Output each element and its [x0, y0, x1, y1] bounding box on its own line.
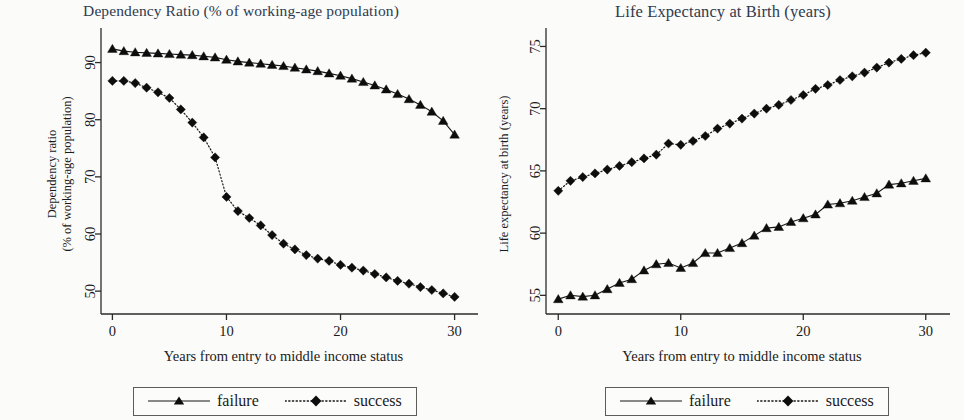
data-point-failure [725, 243, 735, 251]
data-point-success [393, 276, 402, 285]
data-point-success [211, 153, 220, 162]
data-point-success [370, 269, 379, 278]
data-point-failure [737, 239, 747, 247]
x-tick-label: 0 [555, 323, 562, 339]
data-point-success [142, 83, 151, 92]
legend-label-success: success [826, 392, 874, 410]
data-point-failure [627, 275, 637, 283]
data-point-success [725, 119, 734, 128]
series-line-success [112, 81, 454, 297]
data-point-success [811, 84, 820, 93]
data-point-failure [676, 263, 686, 271]
legend-label-failure: failure [217, 392, 259, 410]
data-point-success [823, 80, 832, 89]
data-point-success [860, 68, 869, 77]
y-tick-label: 60 [527, 226, 543, 241]
data-point-success [302, 251, 311, 260]
x-tick-label: 20 [796, 323, 811, 339]
x-tick-label: 10 [219, 323, 234, 339]
data-point-success [835, 75, 844, 84]
y-tick-label: 75 [527, 39, 543, 54]
x-axis-title: Years from entry to middle income status [164, 348, 404, 364]
data-point-success [427, 285, 436, 294]
data-point-success [603, 165, 612, 174]
y-tick-label: 70 [82, 170, 98, 185]
data-point-success [119, 76, 128, 85]
x-tick-label: 30 [447, 323, 462, 339]
chart-plot-life-expectancy: 55606570750102030Years from entry to mid… [482, 0, 964, 420]
data-point-success [664, 139, 673, 148]
y-axis-title: Life expectancy at birth (years) [497, 96, 511, 253]
x-tick-label: 20 [333, 323, 348, 339]
data-point-failure [774, 222, 784, 230]
data-point-failure [381, 85, 391, 93]
data-point-failure [404, 95, 414, 103]
data-point-success [404, 279, 413, 288]
y-tick-label: 80 [82, 112, 98, 127]
legend-life-expectancy: failure success [605, 387, 889, 416]
x-axis-title: Years from entry to middle income status [622, 348, 862, 364]
y-axis-title: (% of working-age population) [60, 96, 74, 251]
data-point-failure [108, 44, 118, 52]
data-point-failure [427, 107, 437, 115]
data-point-success [676, 140, 685, 149]
data-point-failure [602, 285, 612, 293]
x-tick-label: 30 [919, 323, 934, 339]
data-point-success [921, 48, 930, 57]
data-point-success [382, 273, 391, 282]
figure-root: Dependency Ratio (% of working-age popul… [0, 0, 964, 420]
y-tick-label: 50 [82, 284, 98, 299]
data-point-success [359, 266, 368, 275]
data-point-success [762, 104, 771, 113]
data-point-success [884, 58, 893, 67]
y-tick-label: 65 [527, 164, 543, 179]
data-point-failure [664, 258, 674, 266]
data-point-success [799, 90, 808, 99]
x-tick-label: 10 [674, 323, 689, 339]
data-point-success [131, 79, 140, 88]
chart-plot-dependency-ratio: 50607080900102030Years from entry to mid… [0, 0, 482, 420]
legend-marker-triangle-icon [148, 394, 210, 408]
legend-entry-success: success [285, 392, 402, 410]
data-point-success [848, 72, 857, 81]
legend-marker-triangle-icon [620, 394, 682, 408]
data-point-success [750, 109, 759, 118]
data-point-failure [590, 291, 600, 299]
legend-dependency-ratio: failure success [133, 387, 417, 416]
y-tick-label: 70 [527, 101, 543, 116]
data-point-success [701, 131, 710, 140]
data-point-success [256, 221, 265, 230]
legend-label-failure: failure [689, 392, 731, 410]
data-point-success [872, 63, 881, 72]
legend-marker-diamond-icon [757, 394, 819, 408]
data-point-success [439, 289, 448, 298]
y-tick-label: 60 [82, 227, 98, 242]
data-point-success [590, 169, 599, 178]
data-point-success [909, 51, 918, 60]
data-point-failure [566, 291, 576, 299]
legend-entry-failure: failure [148, 392, 259, 410]
legend-label-success: success [354, 392, 402, 410]
data-point-success [786, 95, 795, 104]
chart-panel-life-expectancy: Life Expectancy at Birth (years) 5560657… [482, 0, 964, 420]
data-point-failure [416, 100, 426, 108]
data-point-success [774, 100, 783, 109]
data-point-success [578, 173, 587, 182]
data-point-failure [639, 266, 649, 274]
data-point-success [313, 254, 322, 263]
data-point-success [347, 263, 356, 272]
data-point-success [450, 292, 459, 301]
data-point-success [615, 161, 624, 170]
data-point-success [325, 256, 334, 265]
data-point-failure [749, 231, 759, 239]
data-point-success [416, 283, 425, 292]
legend-entry-failure: failure [620, 392, 731, 410]
data-point-success [639, 154, 648, 163]
data-point-success [199, 133, 208, 142]
data-point-success [290, 245, 299, 254]
chart-panel-dependency-ratio: Dependency Ratio (% of working-age popul… [0, 0, 482, 420]
data-point-failure [872, 189, 882, 197]
y-tick-label: 55 [527, 288, 543, 303]
x-tick-label: 0 [109, 323, 116, 339]
y-axis-title: Dependency ratio [45, 130, 59, 219]
